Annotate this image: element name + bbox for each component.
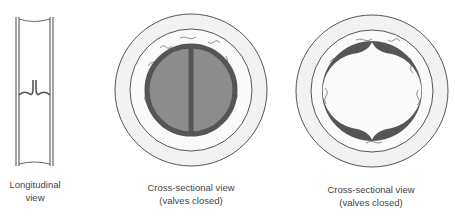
label-line2: view bbox=[0, 191, 70, 204]
longitudinal-vessel bbox=[16, 17, 53, 166]
label-line2: (valves closed) bbox=[131, 194, 251, 207]
label-longitudinal: Longitudinal view bbox=[0, 178, 70, 204]
label-cross-section-2: Cross-sectional view (valves closed) bbox=[311, 183, 431, 209]
label-line1: Cross-sectional view bbox=[131, 181, 251, 194]
label-cross-section-1: Cross-sectional view (valves closed) bbox=[131, 181, 251, 207]
cross-section-ring bbox=[296, 15, 448, 167]
label-line2: (valves closed) bbox=[311, 196, 431, 209]
label-line1: Longitudinal bbox=[0, 178, 70, 191]
valve-cusps bbox=[19, 80, 50, 95]
label-line1: Cross-sectional view bbox=[311, 183, 431, 196]
cross-section-closed-filled bbox=[115, 14, 267, 166]
